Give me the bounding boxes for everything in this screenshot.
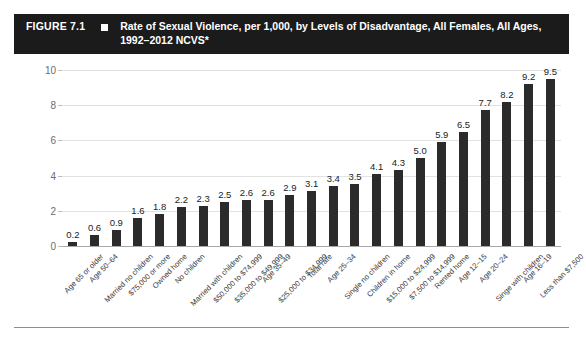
category-slot: Age 35–49 xyxy=(257,250,279,310)
category-slot: Singe with children xyxy=(496,250,518,310)
bottom-divider xyxy=(14,327,569,328)
figure-number: FIGURE 7.1 xyxy=(26,20,85,34)
plot-area: 0246810 0.20.60.91.61.82.22.32.52.62.62.… xyxy=(62,70,561,247)
y-axis-tick-label: 10 xyxy=(45,65,56,76)
category-slot: Age 16–19 xyxy=(518,250,540,310)
bars-group: 0.20.60.91.61.82.22.32.52.62.62.93.13.43… xyxy=(62,70,561,246)
figure-title: Rate of Sexual Violence, per 1,000, by L… xyxy=(120,20,559,47)
bar-value-label: 9.2 xyxy=(522,71,535,82)
category-slot: Owned home xyxy=(149,250,171,310)
bar[interactable] xyxy=(112,230,121,246)
square-bullet-icon xyxy=(101,24,108,31)
bar-slot: 2.5 xyxy=(214,70,236,246)
bar-slot: 2.6 xyxy=(257,70,279,246)
bar[interactable] xyxy=(264,200,273,246)
y-axis-tick-label: 2 xyxy=(50,205,56,216)
category-slot: Rented home xyxy=(431,250,453,310)
category-slot: Single no children xyxy=(344,250,366,310)
bar-slot: 3.4 xyxy=(322,70,344,246)
bar-value-label: 3.1 xyxy=(305,178,318,189)
category-slot: Married no children xyxy=(105,250,127,310)
category-slot: $35,000 to $49,999 xyxy=(236,250,258,310)
bar-value-label: 1.8 xyxy=(153,201,166,212)
bar[interactable] xyxy=(372,174,381,246)
bar[interactable] xyxy=(285,195,294,246)
bar-slot: 5.0 xyxy=(409,70,431,246)
bar-value-label: 6.5 xyxy=(457,119,470,130)
bar[interactable] xyxy=(437,142,446,246)
bar[interactable] xyxy=(90,235,99,246)
bar-slot: 2.2 xyxy=(171,70,193,246)
bar-value-label: 1.6 xyxy=(131,205,144,216)
bar-value-label: 2.2 xyxy=(175,194,188,205)
bar-value-label: 4.3 xyxy=(392,157,405,168)
category-slot: Total rate xyxy=(301,250,323,310)
bar[interactable] xyxy=(242,200,251,246)
bar[interactable] xyxy=(155,214,164,246)
bar-slot: 0.6 xyxy=(84,70,106,246)
category-slot: $7,500 to $14,999 xyxy=(409,250,431,310)
bar-slot: 1.6 xyxy=(127,70,149,246)
bar-slot: 4.3 xyxy=(388,70,410,246)
bar-value-label: 2.5 xyxy=(218,189,231,200)
bar-slot: 9.2 xyxy=(518,70,540,246)
bar-slot: 6.5 xyxy=(453,70,475,246)
bar-value-label: 0.6 xyxy=(88,222,101,233)
category-slot: Less than $7,500 xyxy=(539,250,561,310)
bar-value-label: 0.9 xyxy=(110,217,123,228)
category-slot: Age 65 or older xyxy=(62,250,84,310)
category-slot: Age 25–34 xyxy=(322,250,344,310)
bar[interactable] xyxy=(177,207,186,246)
y-axis-tick-label: 4 xyxy=(50,170,56,181)
bar-slot: 7.7 xyxy=(474,70,496,246)
category-slot: $15,000 to $24,999 xyxy=(388,250,410,310)
x-axis-baseline xyxy=(62,246,561,247)
bar-slot: 4.1 xyxy=(366,70,388,246)
bar[interactable] xyxy=(524,84,533,246)
y-axis-tick-label: 8 xyxy=(50,100,56,111)
bar-value-label: 2.9 xyxy=(283,182,296,193)
category-slot: Children in home xyxy=(366,250,388,310)
bar-slot: 3.1 xyxy=(301,70,323,246)
figure-header-banner: FIGURE 7.1 Rate of Sexual Violence, per … xyxy=(14,14,569,54)
bar-slot: 2.3 xyxy=(192,70,214,246)
category-slot: Age 12–15 xyxy=(453,250,475,310)
bar-slot: 2.6 xyxy=(236,70,258,246)
y-axis-tick-label: 0 xyxy=(50,241,56,252)
bar-slot: 0.2 xyxy=(62,70,84,246)
bar-value-label: 4.1 xyxy=(370,161,383,172)
bar[interactable] xyxy=(307,191,316,246)
bar[interactable] xyxy=(416,158,425,246)
category-slot: Age 20–24 xyxy=(474,250,496,310)
bar-value-label: 0.2 xyxy=(66,229,79,240)
bar[interactable] xyxy=(459,132,468,246)
category-slot: Married with children xyxy=(192,250,214,310)
bar-value-label: 5.9 xyxy=(435,129,448,140)
bar-slot: 9.5 xyxy=(539,70,561,246)
bar-slot: 5.9 xyxy=(431,70,453,246)
bar-value-label: 7.7 xyxy=(479,97,492,108)
bar[interactable] xyxy=(481,110,490,246)
bar-value-label: 2.6 xyxy=(240,187,253,198)
bar[interactable] xyxy=(350,184,359,246)
bar[interactable] xyxy=(502,102,511,246)
category-slot: $50,000 to $74,999 xyxy=(214,250,236,310)
bar-value-label: 2.6 xyxy=(262,187,275,198)
chart-area: 0246810 0.20.60.91.61.82.22.32.52.62.62.… xyxy=(14,62,569,302)
bar-slot: 0.9 xyxy=(105,70,127,246)
bar-slot: 2.9 xyxy=(279,70,301,246)
x-axis-category-labels: Age 65 or olderAge 50–64Married no child… xyxy=(62,250,561,310)
bar-value-label: 3.5 xyxy=(348,171,361,182)
x-axis-category-label: Less than $7,500 xyxy=(538,252,586,300)
bar[interactable] xyxy=(199,206,208,246)
bar[interactable] xyxy=(133,218,142,246)
category-slot: $75,000 or more xyxy=(127,250,149,310)
y-axis-tick-label: 6 xyxy=(50,135,56,146)
bar[interactable] xyxy=(220,202,229,246)
bar[interactable] xyxy=(546,79,555,246)
bar-slot: 1.8 xyxy=(149,70,171,246)
bar[interactable] xyxy=(329,186,338,246)
bar[interactable] xyxy=(394,170,403,246)
bar-value-label: 5.0 xyxy=(413,145,426,156)
